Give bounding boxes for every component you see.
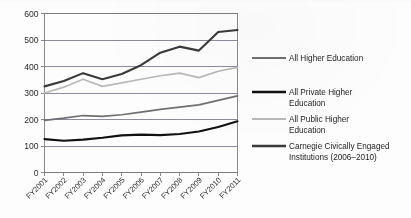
y-tick-label: 100 [24,141,39,151]
legend-label-2: Education [289,126,326,135]
y-tick-label: 600 [24,9,39,19]
chart-canvas: 0100200300400500600 FY2001FY2002FY2003FY… [0,0,411,218]
legend-label-3: Institutions (2006–2010) [289,153,377,162]
y-tick-label: 200 [24,115,39,125]
legend-label-3: Carnegie Civically Engaged [289,142,390,151]
y-tick-label: 300 [24,88,39,98]
y-tick-label: 0 [34,168,39,178]
legend-label-1: Education [289,99,326,108]
legend-label-2: All Public Higher [289,115,349,124]
legend-label-1: All Private Higher [289,88,353,97]
legend-label-0: All Higher Education [289,54,364,63]
y-tick-label: 500 [24,35,39,45]
y-tick-label: 400 [24,62,39,72]
line-chart-figure: 0100200300400500600 FY2001FY2002FY2003FY… [0,0,411,218]
